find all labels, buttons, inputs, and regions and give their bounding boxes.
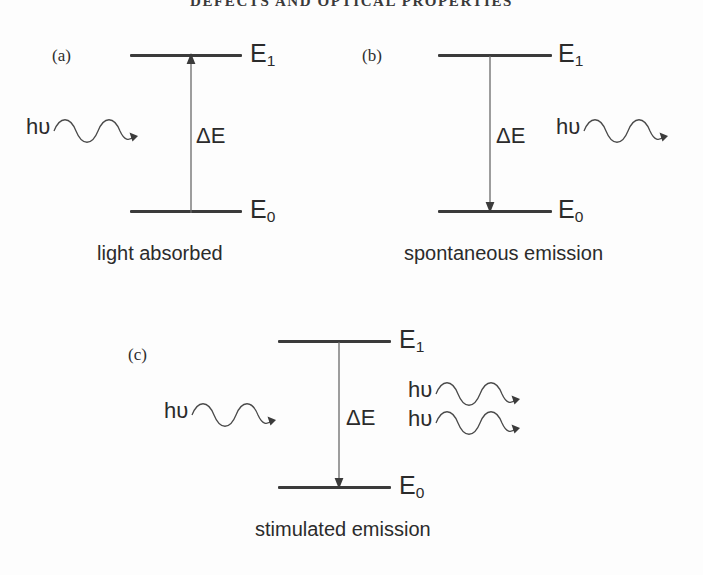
panel-a-delta-energy-label: ΔE [196,123,225,149]
panel-c-incoming-photon-symbol: hυ [164,400,188,422]
running-head: DEFECTS AND OPTICAL PROPERTIES [0,0,703,10]
panel-b-lower-level-label: E0 [558,197,583,222]
panel-a-caption: light absorbed [97,242,223,265]
panel-b-lower-level-subscript: 0 [575,208,584,225]
panel-b-photon-symbol: hυ [556,116,580,138]
panel-b-upper-level-subscript: 1 [575,52,584,69]
panel-c-incoming-photon-wave-icon [190,396,284,426]
panel-b-photon-wave-icon [582,112,676,142]
figure-page: DEFECTS AND OPTICAL PROPERTIES (a) E1 E0… [0,0,703,575]
panel-a-upper-level-label: E1 [250,41,275,66]
panel-b-upper-level-text: E [558,39,575,67]
panel-b-lower-level-text: E [558,195,575,223]
panel-a-upper-level-subscript: 1 [267,52,276,69]
panel-a-lower-level-label: E0 [250,197,275,222]
panel-c-lower-level-subscript: 0 [416,484,425,501]
panel-c-outgoing-photon-1-symbol: hυ [408,379,432,401]
panel-b-letter: (b) [362,46,382,66]
panel-a-upper-level-text: E [250,39,267,67]
panel-c-incoming-photon: hυ [164,396,284,426]
panel-c-upper-level-subscript: 1 [416,338,425,355]
panel-c-outgoing-photon-2-wave-icon [434,404,528,434]
panel-a-photon-wave-icon [52,112,146,142]
panel-c-lower-level-text: E [399,471,416,499]
panel-c-outgoing-photon-2-symbol: hυ [408,408,432,430]
panel-b-upper-level-label: E1 [558,41,583,66]
panel-b-caption: spontaneous emission [404,242,603,265]
panel-c-letter: (c) [128,345,147,365]
panel-b-delta-energy-label: ΔE [496,123,525,149]
panel-a-lower-level-text: E [250,195,267,223]
panel-a-letter: (a) [52,46,71,66]
panel-c-outgoing-photon-1-wave-icon [434,375,528,405]
panel-c-outgoing-photon-2: hυ [408,404,528,434]
panel-a-photon-symbol: hυ [26,116,50,138]
panel-c-caption: stimulated emission [255,518,431,541]
panel-a-lower-level-subscript: 0 [267,208,276,225]
panel-c-delta-energy-label: ΔE [346,405,375,431]
panel-c-upper-level-text: E [399,325,416,353]
panel-c-outgoing-photon-1: hυ [408,375,528,405]
panel-a-incoming-photon: hυ [26,112,146,142]
panel-c-upper-level-label: E1 [399,327,424,352]
panel-b-outgoing-photon: hυ [556,112,676,142]
panel-c-lower-level-label: E0 [399,473,424,498]
